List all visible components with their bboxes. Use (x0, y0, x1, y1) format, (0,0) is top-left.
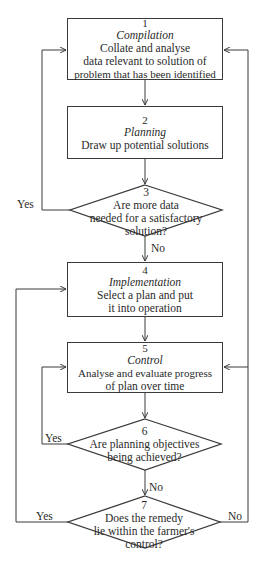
step-number: 5 (68, 342, 222, 354)
step-number: 4 (68, 264, 222, 276)
decision-7-text: 7 Does the remedy lie within the farmer'… (68, 499, 220, 551)
decision-7-yes-label: Yes (36, 510, 53, 523)
step-title: Implementation (68, 276, 222, 289)
step-title: Control (68, 354, 222, 367)
step-number: 1 (68, 17, 222, 29)
step-4-implementation-box: 4 Implementation Select a plan and put i… (67, 262, 223, 317)
question-line: lie within the farmer's (68, 525, 220, 538)
step-text-line: Collate and analyse (68, 42, 222, 55)
question-line: Are planning objectives (68, 438, 221, 451)
decision-7-no-label: No (228, 510, 242, 523)
question-line: Does the remedy (68, 512, 220, 525)
decision-6-no-label: No (149, 481, 163, 494)
step-number: 2 (68, 114, 222, 126)
question-line: solution? (70, 225, 222, 238)
decision-6-yes-label: Yes (45, 432, 62, 445)
step-text-line: Select a plan and put (68, 289, 222, 302)
step-title: Planning (68, 126, 222, 139)
step-text-line: Analyse and evaluate progress (68, 367, 222, 380)
step-title: Compilation (68, 29, 222, 42)
decision-6-text: 6 Are planning objectives being achieved… (68, 425, 221, 464)
step-1-compilation-box: 1 Compilation Collate and analyse data r… (67, 18, 223, 80)
step-number: 7 (68, 499, 220, 512)
question-line: control? (68, 538, 220, 551)
step-2-planning-box: 2 Planning Draw up potential solutions (67, 106, 223, 159)
decision-3-text: 3 Are more data needed for a satisfactor… (70, 186, 222, 238)
question-line: Are more data (70, 199, 222, 212)
decision-3-no-label: No (151, 242, 165, 255)
decision-3-yes-label: Yes (17, 198, 34, 211)
step-text-line: of plan over time (68, 380, 222, 393)
step-text-line: data relevant to solution of (68, 55, 222, 68)
question-line: being achieved? (68, 451, 221, 464)
step-number: 6 (68, 425, 221, 438)
step-text-line: it into operation (68, 302, 222, 315)
step-5-control-box: 5 Control Analyse and evaluate progress … (67, 342, 223, 393)
step-text-line: problem that has been identified (68, 68, 222, 81)
step-text-line: Draw up potential solutions (68, 139, 222, 152)
question-line: needed for a satisfactory (70, 212, 222, 225)
step-number: 3 (70, 186, 222, 199)
